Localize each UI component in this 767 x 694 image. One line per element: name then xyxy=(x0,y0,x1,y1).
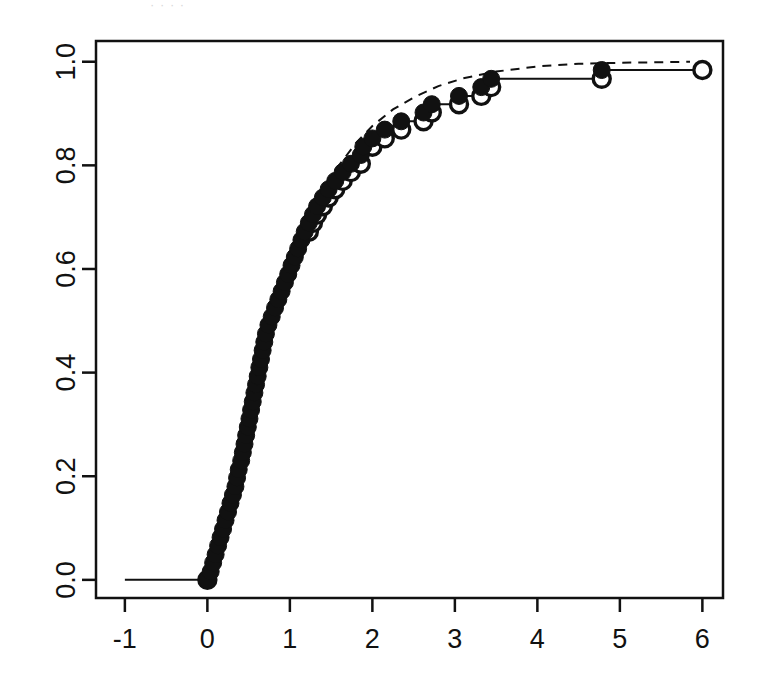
cropped-caption-sliver: · · · · xyxy=(0,0,767,10)
ecdf-filled-point xyxy=(483,70,500,87)
fitted-cdf-curve xyxy=(207,62,690,580)
ecdf-figure: · · · · -10123456 0.00.20.40.60.81.0 xyxy=(0,0,767,694)
ecdf-filled-point xyxy=(376,121,393,138)
y-tick-label: 0.8 xyxy=(51,147,81,185)
x-axis-ticks xyxy=(125,598,703,612)
y-axis-tick-labels: 0.00.20.40.60.81.0 xyxy=(51,43,81,599)
ecdf-step-line xyxy=(125,62,703,580)
ecdf-filled-point xyxy=(451,87,468,104)
ecdf-plot-canvas: -10123456 0.00.20.40.60.81.0 xyxy=(0,0,767,694)
ecdf-filled-point xyxy=(423,96,440,113)
x-tick-label: 5 xyxy=(612,624,627,654)
ecdf-open-point xyxy=(694,62,711,79)
x-tick-label: 2 xyxy=(365,624,380,654)
y-tick-label: 1.0 xyxy=(51,43,81,81)
x-tick-label: 4 xyxy=(530,624,545,654)
x-tick-label: -1 xyxy=(113,624,137,654)
x-tick-label: 3 xyxy=(447,624,462,654)
y-axis-ticks xyxy=(82,62,96,580)
y-tick-label: 0.2 xyxy=(51,457,81,495)
ecdf-filled-point xyxy=(593,62,610,79)
ecdf-filled-circle-points xyxy=(199,62,610,589)
ecdf-filled-point xyxy=(393,113,410,130)
y-tick-label: 0.4 xyxy=(51,354,81,392)
y-tick-label: 0.0 xyxy=(51,561,81,599)
x-tick-label: 0 xyxy=(200,624,215,654)
y-tick-label: 0.6 xyxy=(51,250,81,288)
x-axis-tick-labels: -10123456 xyxy=(113,624,710,654)
x-tick-label: 1 xyxy=(282,624,297,654)
x-tick-label: 6 xyxy=(695,624,710,654)
